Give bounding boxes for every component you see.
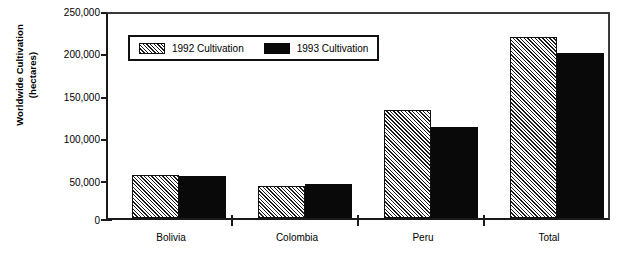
bar-chart-figure: Worldwide Cultivation (hectares) 250,000… bbox=[0, 0, 623, 277]
bar-total-1993 bbox=[557, 53, 604, 218]
bar-total-1992 bbox=[510, 37, 557, 218]
legend-label-1993: 1993 Cultivation bbox=[297, 43, 369, 54]
bar-colombia-1993 bbox=[305, 184, 352, 218]
bar-peru-1992 bbox=[384, 110, 431, 218]
next-chart-partial: 350,000 bbox=[0, 250, 623, 277]
y-axis-title-line1: Worldwide Cultivation bbox=[14, 24, 25, 126]
chart-legend: 1992 Cultivation 1993 Cultivation bbox=[128, 35, 379, 61]
bar-peru-1993 bbox=[431, 127, 478, 218]
bar-bolivia-1992 bbox=[132, 175, 179, 218]
y-axis-title-line2: (hectares) bbox=[26, 0, 39, 155]
legend-swatch-solid-icon bbox=[264, 43, 290, 54]
x-category-label-total: Total bbox=[507, 232, 591, 243]
legend-label-1992: 1992 Cultivation bbox=[172, 43, 244, 54]
legend-item-1993: 1993 Cultivation bbox=[264, 43, 369, 54]
x-tick-mark-3 bbox=[483, 215, 485, 226]
y-tick-label-50000: 50,000 bbox=[10, 178, 100, 188]
x-tick-mark-2 bbox=[357, 215, 359, 226]
legend-swatch-hatch-icon bbox=[139, 43, 165, 54]
x-category-label-peru: Peru bbox=[381, 232, 465, 243]
y-tick-label-150000: 150,000 bbox=[10, 93, 100, 103]
y-axis-title: Worldwide Cultivation (hectares) bbox=[13, 0, 43, 155]
legend-item-1992: 1992 Cultivation bbox=[139, 43, 244, 54]
x-category-label-colombia: Colombia bbox=[255, 232, 339, 243]
bar-colombia-1992 bbox=[258, 186, 305, 218]
y-tick-label-100000: 100,000 bbox=[10, 135, 100, 145]
x-category-label-bolivia: Bolivia bbox=[129, 232, 213, 243]
y-tick-label-200000: 200,000 bbox=[10, 50, 100, 60]
bar-bolivia-1993 bbox=[179, 176, 226, 218]
y-tick-label-0: 0 bbox=[10, 216, 100, 226]
y-tick-label-250000: 250,000 bbox=[10, 8, 100, 18]
x-tick-mark-1 bbox=[231, 215, 233, 226]
